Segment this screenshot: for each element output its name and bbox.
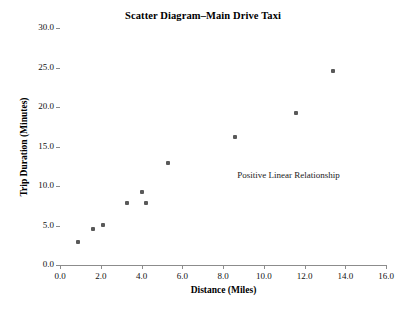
x-tick-mark [386, 265, 387, 269]
data-point [166, 161, 170, 165]
data-point [331, 69, 335, 73]
y-tick-mark [56, 107, 60, 108]
x-tick-label: 0.0 [40, 271, 80, 281]
y-tick-mark [56, 186, 60, 187]
x-tick-label: 6.0 [162, 271, 202, 281]
data-point [125, 201, 129, 205]
data-point [76, 240, 80, 244]
y-tick-label: 30.0 [14, 22, 54, 32]
x-tick-mark [60, 265, 61, 269]
x-tick-label: 10.0 [244, 271, 284, 281]
x-tick-mark [101, 265, 102, 269]
y-tick-mark [56, 265, 60, 266]
data-point [101, 223, 105, 227]
chart-title: Scatter Diagram–Main Drive Taxi [0, 10, 406, 21]
y-tick-mark [56, 226, 60, 227]
x-tick-mark [223, 265, 224, 269]
x-tick-mark [142, 265, 143, 269]
scatter-chart: Scatter Diagram–Main Drive Taxi 0.02.04.… [0, 0, 406, 311]
y-tick-mark [56, 68, 60, 69]
x-tick-label: 8.0 [203, 271, 243, 281]
data-point [144, 201, 148, 205]
x-tick-mark [264, 265, 265, 269]
x-tick-mark [182, 265, 183, 269]
y-tick-mark [56, 28, 60, 29]
y-axis-label: Trip Duration (Minutes) [19, 47, 29, 247]
x-tick-label: 12.0 [285, 271, 325, 281]
x-tick-label: 16.0 [366, 271, 406, 281]
x-axis-label: Distance (Miles) [60, 285, 387, 295]
y-tick-label: 0.0 [14, 259, 54, 269]
data-point [91, 227, 95, 231]
x-tick-mark [345, 265, 346, 269]
data-point [140, 190, 144, 194]
x-tick-label: 14.0 [325, 271, 365, 281]
chart-annotation: Positive Linear Relationship [237, 170, 340, 180]
x-tick-label: 2.0 [81, 271, 121, 281]
y-tick-mark [56, 147, 60, 148]
x-tick-label: 4.0 [122, 271, 162, 281]
data-point [233, 135, 237, 139]
data-point [294, 111, 298, 115]
x-tick-mark [305, 265, 306, 269]
